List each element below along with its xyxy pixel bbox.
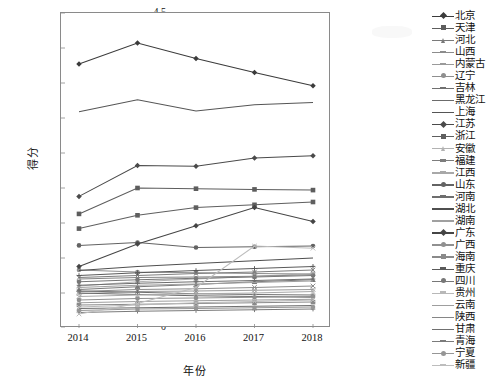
legend-label: 甘肃: [454, 323, 475, 335]
legend-item-新疆[interactable]: 新疆: [432, 359, 502, 371]
legend-swatch-icon: [432, 46, 454, 58]
legend-item-重庆[interactable]: 重庆: [432, 263, 502, 275]
legend-label: 海南: [454, 251, 475, 263]
legend-swatch-icon: [432, 143, 454, 155]
legend-swatch-icon: [432, 215, 454, 227]
legend-item-上海[interactable]: 上海: [432, 106, 502, 118]
chart-figure: 得分 年份 4.543.532.521.510.50 2014201520162…: [0, 0, 502, 390]
x-tick-label: 2016: [165, 332, 225, 343]
legend-item-河南[interactable]: 河南: [432, 191, 502, 203]
series-9: [76, 153, 316, 199]
legend-item-宁夏[interactable]: 宁夏: [432, 347, 502, 359]
legend-swatch-icon: [432, 203, 454, 215]
legend-item-安徽[interactable]: 安徽: [432, 143, 502, 155]
legend-label: 湖南: [454, 215, 475, 227]
legend-label: 湖北: [454, 203, 475, 215]
legend-item-吉林[interactable]: 吉林: [432, 82, 502, 94]
legend-item-甘肃[interactable]: 甘肃: [432, 323, 502, 335]
legend-item-陕西[interactable]: 陕西: [432, 311, 502, 323]
series-1: [77, 186, 316, 217]
legend-label: 陕西: [454, 311, 475, 323]
legend-item-内蒙古[interactable]: 内蒙古: [432, 58, 502, 70]
legend-item-天津[interactable]: 天津: [432, 22, 502, 34]
legend-swatch-icon: [432, 179, 454, 191]
legend-label: 北京: [454, 10, 475, 22]
legend-swatch-icon: [432, 239, 454, 251]
legend-swatch-icon: [432, 118, 454, 130]
legend-label: 江西: [454, 167, 475, 179]
legend-label: 新疆: [454, 359, 475, 371]
legend-label: 广西: [454, 239, 475, 251]
legend-item-贵州[interactable]: 贵州: [432, 287, 502, 299]
x-tick-label: 2017: [224, 332, 284, 343]
legend-swatch-icon: [432, 167, 454, 179]
legend-item-广西[interactable]: 广西: [432, 239, 502, 251]
y-axis-title: 得分: [24, 128, 40, 188]
legend-item-河北[interactable]: 河北: [432, 34, 502, 46]
legend-swatch-icon: [432, 227, 454, 239]
legend-item-辽宁[interactable]: 辽宁: [432, 70, 502, 82]
legend-swatch-icon: [432, 299, 454, 311]
legend-item-广东[interactable]: 广东: [432, 227, 502, 239]
legend-swatch-icon: [432, 94, 454, 106]
legend-item-黑龙江[interactable]: 黑龙江: [432, 94, 502, 106]
legend-swatch-icon: [432, 323, 454, 335]
legend-swatch-icon: [432, 22, 454, 34]
legend-label: 江苏: [454, 118, 475, 130]
legend-swatch-icon: [432, 82, 454, 94]
legend-item-海南[interactable]: 海南: [432, 251, 502, 263]
legend-swatch-icon: [432, 34, 454, 46]
legend-label: 福建: [454, 155, 475, 167]
legend-item-湖北[interactable]: 湖北: [432, 203, 502, 215]
legend-label: 上海: [454, 106, 475, 118]
legend-swatch-icon: [432, 311, 454, 323]
legend-label: 云南: [454, 299, 475, 311]
legend-swatch-icon: [432, 287, 454, 299]
legend-item-云南[interactable]: 云南: [432, 299, 502, 311]
plot-area: [60, 12, 330, 327]
legend-item-北京[interactable]: 北京: [432, 10, 502, 22]
legend-label: 青海: [454, 335, 475, 347]
scan-smudge-2: [372, 26, 412, 38]
legend-label: 重庆: [454, 263, 475, 275]
legend-item-江西[interactable]: 江西: [432, 167, 502, 179]
legend-label: 内蒙古: [454, 58, 485, 70]
legend-swatch-icon: [432, 275, 454, 287]
legend-item-山西[interactable]: 山西: [432, 46, 502, 58]
x-tick-label: 2014: [48, 332, 108, 343]
series-14: [77, 240, 316, 250]
series-8: [79, 100, 313, 112]
legend-swatch-icon: [432, 130, 454, 142]
legend-label: 河南: [454, 191, 475, 203]
series-canvas: [61, 13, 331, 328]
legend-item-青海[interactable]: 青海: [432, 335, 502, 347]
legend-label: 河北: [454, 34, 475, 46]
legend-swatch-icon: [432, 359, 454, 371]
legend-swatch-icon: [432, 58, 454, 70]
legend-label: 黑龙江: [454, 94, 485, 106]
legend-swatch-icon: [432, 251, 454, 263]
legend-label: 浙江: [454, 130, 475, 142]
legend-label: 贵州: [454, 287, 475, 299]
legend-label: 广东: [454, 227, 475, 239]
legend-item-浙江[interactable]: 浙江: [432, 130, 502, 142]
legend-item-江苏[interactable]: 江苏: [432, 118, 502, 130]
legend-swatch-icon: [432, 70, 454, 82]
legend-label: 辽宁: [454, 70, 475, 82]
legend-item-山东[interactable]: 山东: [432, 179, 502, 191]
legend-item-四川[interactable]: 四川: [432, 275, 502, 287]
legend-label: 安徽: [454, 143, 475, 155]
legend-swatch-icon: [432, 191, 454, 203]
series-0: [76, 40, 316, 88]
legend-item-福建[interactable]: 福建: [432, 155, 502, 167]
legend-item-湖南[interactable]: 湖南: [432, 215, 502, 227]
legend-label: 山西: [454, 46, 475, 58]
legend: 北京天津河北山西内蒙古辽宁吉林黑龙江上海江苏浙江安徽福建江西山东河南湖北湖南广东…: [432, 10, 502, 371]
legend-swatch-icon: [432, 10, 454, 22]
legend-label: 四川: [454, 275, 475, 287]
x-tick-label: 2018: [282, 332, 342, 343]
x-axis-title: 年份: [60, 362, 330, 378]
legend-swatch-icon: [432, 335, 454, 347]
x-tick-label: 2015: [107, 332, 167, 343]
legend-label: 吉林: [454, 82, 475, 94]
